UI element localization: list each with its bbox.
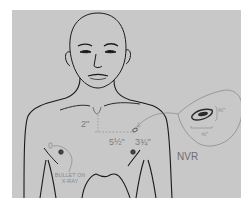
body-outline-svg: [12, 10, 241, 198]
wound-length-label: ⅜": [218, 107, 225, 113]
head-icon: [66, 13, 131, 88]
left-nipple: [59, 150, 64, 155]
inset-label-nvr: NVR: [177, 152, 198, 162]
bullet-note-line2: X-RAY: [48, 179, 92, 185]
right-nipple: [131, 150, 136, 155]
diagram-panel: 2" 5½" 3¾" ⅜" ⅝" NVR BULLET ON X-RAY: [12, 10, 241, 198]
wound-width-label: ⅝": [201, 131, 208, 137]
measure-horizontal: 5½": [109, 138, 125, 147]
bullet-note: BULLET ON X-RAY: [48, 173, 92, 184]
inset-bubble: [178, 90, 241, 146]
measure-vertical: 2": [81, 120, 89, 129]
wound-marker: [132, 127, 138, 132]
leader-line: [137, 113, 178, 127]
inset-wound: [191, 106, 217, 128]
measurement-guides: [95, 115, 134, 132]
measure-below-nipple: 3¾": [135, 138, 151, 147]
